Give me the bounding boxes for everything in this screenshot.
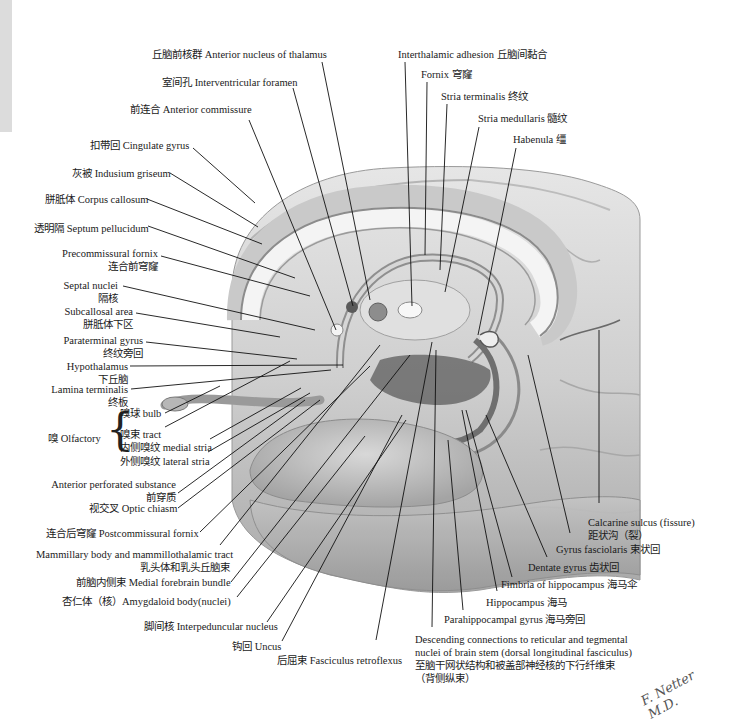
anterior-nucleus-shape [369,303,387,321]
label-descending-connections-line2: nuclei of brain stem (dorsal longitudina… [415,646,632,659]
label-subcallosal-area: Subcallosal area 胼胝体下区 [40,305,133,331]
label-anterior-nucleus-thalamus: 丘脑前核群 Anterior nucleus of thalamus [152,48,327,61]
label-precommissural-fornix-en: Precommissural fornix [40,247,158,260]
label-precommissural-fornix: Precommissural fornix 连合前穹窿 [40,247,158,273]
label-fimbria-hippocampus: Fimbria of hippocampus 海马伞 [501,578,637,591]
label-septal-nuclei-zh: 隔核 [40,292,118,305]
label-descending-connections-line4: （背侧纵束） [415,672,632,685]
label-descending-connections: Descending connections to reticular and … [415,633,632,685]
label-stria-terminalis: Stria terminalis 终纹 [441,90,528,103]
label-lamina-terminalis-en: Lamina terminalis [40,383,128,396]
label-optic-chiasm: 视交叉 Optic chiasm [89,502,177,515]
label-hippocampus: Hippocampus 海马 [486,596,567,609]
label-anterior-perforated-substance: Anterior perforated substance 前穿质 [40,478,176,504]
label-interventricular-foramen: 室间孔 Interventricular foramen [162,76,298,89]
label-habenula: Habenula 缰 [513,133,566,146]
label-olfactory-bulb: 嗅球 bulb [120,407,161,420]
label-paraterminal-gyrus-en: Paraterminal gyrus [40,334,143,347]
label-septum-pellucidum: 透明隔 Septum pellucidum [34,222,149,235]
label-gyrus-fasciolaris: Gyrus fasciolaris 束状回 [556,543,660,556]
interthalamic-adhesion-shape [398,302,422,318]
label-lateral-stria: 外侧嗅纹 lateral stria [120,455,210,468]
label-precommissural-fornix-zh: 连合前穹窿 [40,260,158,273]
label-olfactory-group: 嗅 Olfactory [48,432,101,445]
label-medial-stria: 内侧嗅纹 medial stria [120,441,212,454]
label-cingulate-gyrus: 扣带回 Cingulate gyrus [90,139,189,152]
label-calcarine-sulcus-zh: 距状沟（裂） [588,529,695,542]
label-mammillary-body-zh: 乳头体和乳头丘脑束 [36,561,230,574]
label-interpeduncular-nucleus: 脚间核 Interpeduncular nucleus [144,620,278,633]
label-subcallosal-area-en: Subcallosal area [40,305,133,318]
label-paraterminal-gyrus: Paraterminal gyrus 终纹旁回 [40,334,143,360]
label-olfactory-tract: 嗅束 tract [120,428,161,441]
label-paraterminal-gyrus-zh: 终纹旁回 [40,347,143,360]
label-calcarine-sulcus: Calcarine sulcus (fissure) 距状沟（裂） [588,516,695,542]
label-stria-medullaris: Stria medullaris 髓纹 [478,112,567,125]
label-fornix: Fornix 穹窿 [421,68,472,81]
label-interthalamic-adhesion: Interthalamic adhesion 丘脑间黏合 [398,48,547,61]
label-indusium-griseum: 灰被 Indusium griseum [72,167,171,180]
mammillary-shape [331,324,343,336]
label-subcallosal-area-zh: 胼胝体下区 [40,318,133,331]
label-corpus-callosum: 胼胝体 Corpus callosum [45,193,149,206]
label-mammillary-body: Mammillary body and mammillothalamic tra… [36,548,230,574]
label-medial-forebrain-bundle: 前脑内侧束 Medial forebrain bundle [76,576,231,589]
label-postcommissural-fornix: 连合后穹窿 Postcommissural fornix [46,527,199,540]
label-parahippocampal-gyrus: Parahippocampal gyrus 海马旁回 [444,613,585,626]
label-hypothalamus-en: Hypothalamus [40,360,128,373]
label-anterior-perforated-substance-en: Anterior perforated substance [40,478,176,491]
label-septal-nuclei: Septal nuclei 隔核 [40,279,118,305]
label-calcarine-sulcus-en: Calcarine sulcus (fissure) [588,516,695,529]
label-septal-nuclei-en: Septal nuclei [40,279,118,292]
label-fasciculus-retroflexus: 后屈束 Fasciculus retroflexus [277,654,402,667]
label-descending-connections-line3: 至脑干网状结构和被盖部神经核的下行纤维束 [415,659,632,672]
label-anterior-commissure: 前连合 Anterior commissure [130,103,252,116]
label-amygdaloid-body: 杏仁体（核）Amygdaloid body(nuclei) [62,595,231,608]
label-descending-connections-line1: Descending connections to reticular and … [415,633,632,646]
label-mammillary-body-en: Mammillary body and mammillothalamic tra… [36,548,230,561]
label-uncus: 钩回 Uncus [232,640,281,653]
label-dentate-gyrus: Dentate gyrus 齿状回 [528,561,619,574]
